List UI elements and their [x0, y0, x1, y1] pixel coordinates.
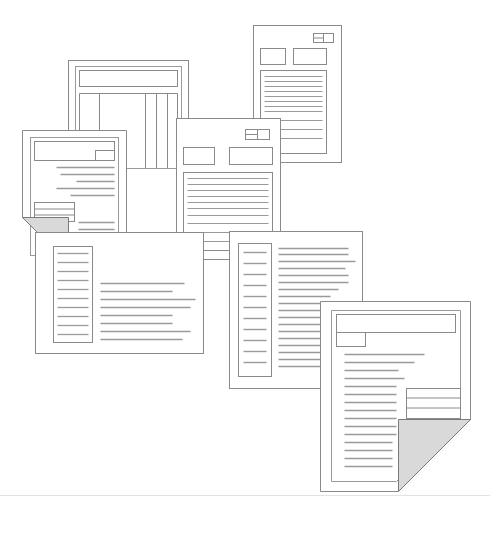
doc-topright-header-box-2	[294, 49, 327, 65]
doc-2col-left-column-box	[54, 247, 93, 343]
doc-topright-header-box-1	[261, 49, 286, 65]
illustration-canvas	[0, 0, 490, 540]
doc-center-header-box-2	[230, 148, 273, 165]
document-two-column-left	[36, 233, 204, 354]
doc-center-header-box-1	[184, 148, 215, 165]
doc-table-header-bar	[80, 71, 178, 87]
doc-folded-br-sub-box	[337, 333, 366, 347]
doc-center-badge	[246, 130, 270, 140]
documents-illustration	[0, 0, 490, 540]
doc-folded-br-inset-table	[407, 389, 461, 419]
doc-folded-br-header-bar	[337, 315, 456, 333]
doc-folded-left-notch-box	[96, 151, 115, 161]
doc-table-body-box	[125, 169, 178, 239]
doc-topright-badge	[314, 34, 334, 43]
